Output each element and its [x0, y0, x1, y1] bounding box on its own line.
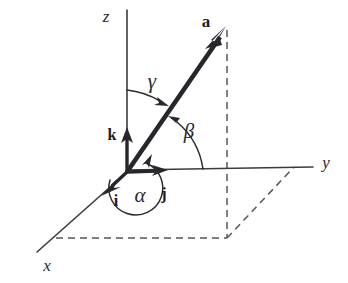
vector-diagram-canvas: z y x a k i j γ β α: [0, 0, 348, 283]
unit-vector-j-label: j: [160, 185, 166, 203]
vector-a-shaft: [127, 37, 220, 172]
vector-a-group: [127, 26, 226, 172]
angle-gamma-label: γ: [148, 69, 157, 93]
angle-arc-beta-arrowhead: [168, 116, 181, 127]
angle-alpha-label: α: [134, 183, 146, 207]
vector-a-label: a: [202, 12, 211, 31]
unit-vector-j-shaft: [127, 171, 157, 172]
axis-x-label: x: [42, 256, 51, 275]
axes-group: [37, 10, 313, 252]
vector-direction-angles-figure: z y x a k i j γ β α: [0, 0, 348, 283]
dashed-projection-group: [56, 30, 294, 238]
angle-beta-label: β: [183, 119, 195, 143]
dashed-projection-diagonal: [227, 167, 294, 238]
axis-y-label: y: [320, 153, 330, 172]
axis-z-label: z: [102, 7, 110, 26]
unit-vector-k-label: k: [108, 126, 117, 143]
unit-vector-i-label: i: [114, 192, 119, 209]
